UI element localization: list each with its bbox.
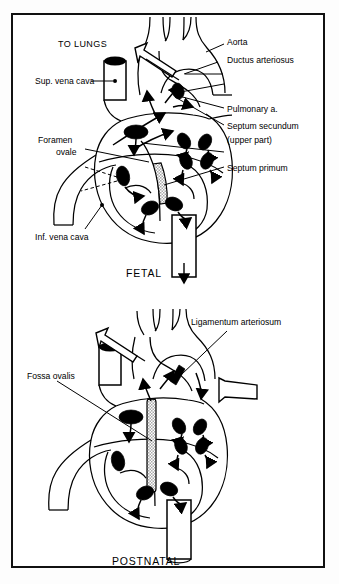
caption-fetal: FETAL bbox=[126, 267, 162, 279]
postnatal-inferior-vena-cava bbox=[49, 440, 111, 510]
postnatal-heart-figure: Ligamentum arteriosum Fossa ovalis POSTN… bbox=[13, 287, 323, 567]
figure-frame: TO LUNGS Aorta Ductus arteriosus Sup. ve… bbox=[11, 13, 325, 568]
ligamentum-arteriosum-cord bbox=[170, 365, 185, 385]
fetal-heart-figure: TO LUNGS Aorta Ductus arteriosus Sup. ve… bbox=[13, 15, 323, 290]
label-septum-secundum-upper-part: (upper part) bbox=[227, 135, 272, 145]
to-lungs-arrow bbox=[135, 43, 179, 80]
label-sup-vena-cava: Sup. vena cava bbox=[35, 76, 94, 86]
postnatal-descending-aorta bbox=[167, 500, 191, 563]
fetal-septum-primum-flap bbox=[141, 141, 167, 204]
fetal-descending-aorta bbox=[172, 215, 196, 283]
fetal-superior-vena-cava bbox=[104, 57, 126, 122]
label-septum-primum: Septum primum bbox=[227, 163, 288, 173]
postnatal-heart-outline bbox=[89, 398, 227, 528]
label-aorta: Aorta bbox=[227, 37, 248, 47]
diagram-page: TO LUNGS Aorta Ductus arteriosus Sup. ve… bbox=[0, 0, 339, 584]
label-foramen: Foramen bbox=[38, 135, 73, 145]
label-ductus-arteriosus: Ductus arteriosus bbox=[227, 55, 294, 65]
label-pulmonary-artery: Pulmonary a. bbox=[227, 104, 278, 114]
postnatal-fossa-ovalis bbox=[147, 399, 156, 492]
label-fossa-ovalis: Fossa ovalis bbox=[27, 371, 75, 381]
label-septum-secundum: Septum secundum bbox=[227, 121, 299, 131]
label-to-lungs: TO LUNGS bbox=[58, 39, 107, 49]
label-ligamentum-arteriosum: Ligamentum arteriosum bbox=[191, 317, 281, 327]
label-inf-vena-cava: Inf. vena cava bbox=[35, 232, 89, 242]
caption-postnatal: POSTNATAL bbox=[112, 555, 180, 567]
label-ovale: ovale bbox=[56, 147, 77, 157]
